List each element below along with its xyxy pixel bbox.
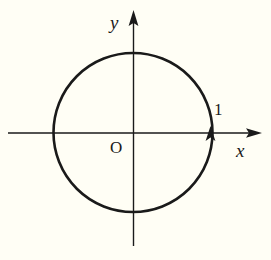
unit-circle-canvas [0,0,271,260]
x-axis-label: x [236,141,244,160]
origin-label: O [110,139,122,156]
unit-circle-figure: y x O 1 [0,0,271,260]
y-axis-label: y [110,13,118,32]
unit-point-label: 1 [214,101,223,118]
